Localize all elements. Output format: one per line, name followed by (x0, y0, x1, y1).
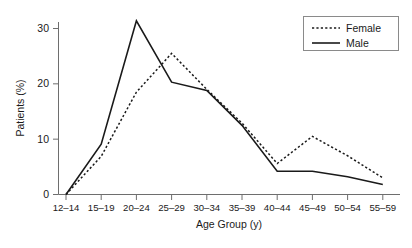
x-tick-label: 12–14 (53, 202, 80, 213)
y-tick-label: 0 (43, 188, 49, 200)
chart-container: 0102030 Patients (%) 12–1415–1920–2425–2… (0, 0, 412, 248)
x-axis-title: Age Group (y) (196, 218, 262, 230)
x-tick-label: 50–54 (334, 202, 361, 213)
y-tick-label: 10 (37, 133, 49, 145)
y-axis-title: Patients (%) (14, 79, 26, 136)
y-tick-label: 20 (37, 77, 49, 89)
x-axis: 12–1415–1920–2425–2930–3435–3940–4445–49… (53, 195, 400, 231)
x-tick-label: 35–39 (229, 202, 256, 213)
x-tick-label: 25–29 (158, 202, 185, 213)
x-tick-label: 15–19 (88, 202, 115, 213)
legend-label-male: Male (346, 37, 369, 49)
y-tick-group: 0102030 (37, 22, 58, 200)
y-axis: 0102030 Patients (%) (14, 22, 59, 200)
x-tick-label: 55–59 (369, 202, 396, 213)
legend-label-female: Female (346, 22, 381, 34)
x-tick-label: 30–34 (193, 202, 220, 213)
series-line-female (66, 53, 383, 194)
legend: FemaleMale (304, 17, 399, 51)
x-tick-label: 45–49 (299, 202, 326, 213)
x-tick-label: 20–24 (123, 202, 150, 213)
line-chart: 0102030 Patients (%) 12–1415–1920–2425–2… (0, 0, 412, 248)
y-tick-label: 30 (37, 22, 49, 34)
x-tick-label: 40–44 (264, 202, 291, 213)
x-tick-group: 12–1415–1920–2425–2930–3435–3940–4445–49… (53, 195, 396, 214)
